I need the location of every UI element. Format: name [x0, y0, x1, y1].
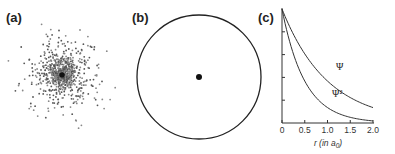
psi-squared-curve: [282, 9, 373, 121]
wavefunction-chart: 00.51.01.52.0 Ψ Ψ² r (in a0): [280, 8, 380, 149]
x-tick-label: 1.5: [344, 125, 356, 135]
x-tick-label: 2.0: [367, 125, 379, 135]
figure-canvas: 00.51.01.52.0 Ψ Ψ² r (in a0): [0, 0, 395, 154]
x-tick-label: 0.5: [299, 125, 311, 135]
psi-squared-label: Ψ²: [332, 88, 342, 99]
nucleus-dot: [59, 72, 65, 78]
x-axis-title: r (in a0): [314, 138, 342, 149]
orbit-circle-diagram: [137, 15, 261, 139]
nucleus-dot: [196, 74, 202, 80]
psi-label: Ψ: [336, 61, 344, 72]
x-ticks: 00.51.01.52.0: [280, 120, 380, 135]
x-tick-label: 1.0: [322, 125, 334, 135]
electron-density-cloud: [7, 23, 116, 129]
x-tick-label: 0: [280, 125, 285, 135]
psi-curve: [282, 9, 373, 108]
